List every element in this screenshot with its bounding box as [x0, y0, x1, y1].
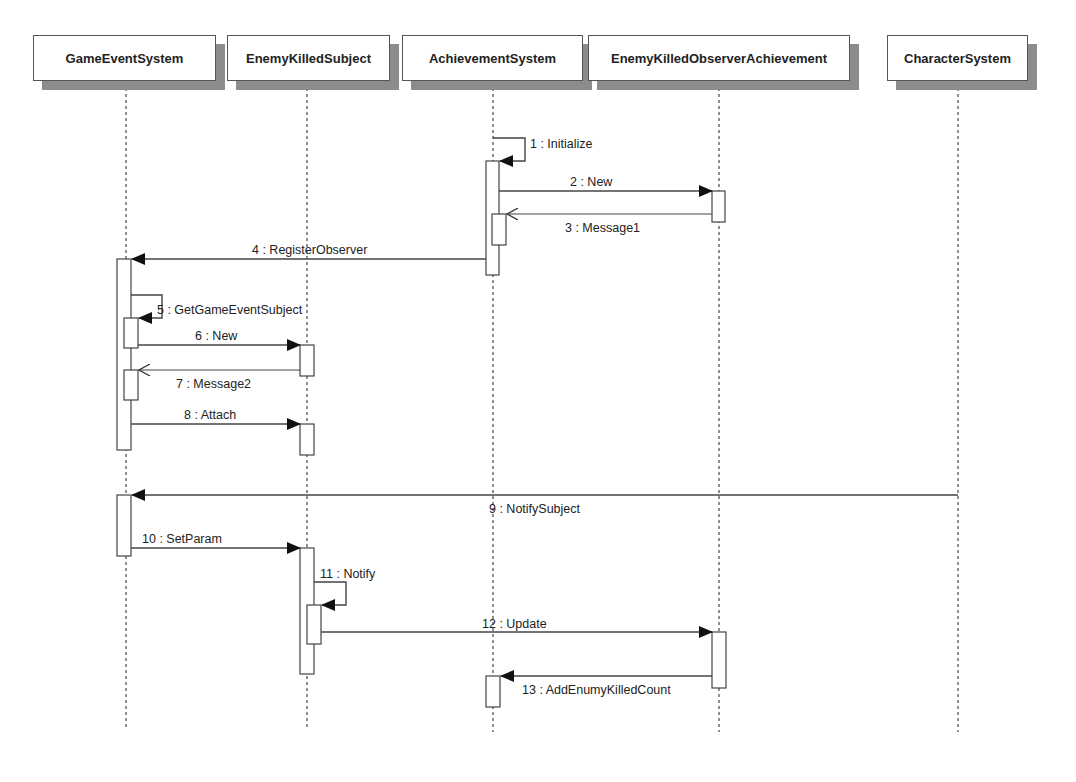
lifeline-head-character-system: CharacterSystem	[887, 35, 1028, 81]
message-8-label: 8 : Attach	[184, 408, 236, 422]
message-9-label: 9 : NotifySubject	[489, 502, 580, 516]
message-13-label: 13 : AddEnumyKilledCount	[522, 683, 671, 697]
activation-eks-1	[300, 345, 314, 376]
message-10-label: 10 : SetParam	[142, 532, 222, 546]
activation-game-event-system-3	[124, 370, 138, 400]
lifeline-head-achievement-system: AchievementSystem	[402, 35, 583, 81]
activation-bars	[117, 161, 726, 707]
activation-eks-4	[307, 605, 321, 644]
message-5-label: 5 : GetGameEventSubject	[157, 303, 302, 317]
message-11-arrow	[314, 582, 346, 605]
message-1-label: 1 : Initialize	[530, 137, 593, 151]
activation-achievement-system-3	[486, 676, 500, 707]
activation-ekoa-1	[712, 191, 725, 222]
lifeline-head-enemy-killed-subject: EnemyKilledSubject	[227, 35, 390, 81]
activation-achievement-system-2	[492, 214, 506, 245]
activation-game-event-system-2	[124, 318, 138, 348]
activation-ekoa-2	[712, 632, 726, 688]
diagram-canvas	[0, 0, 1076, 782]
message-6-label: 6 : New	[195, 329, 237, 343]
message-11-label: 11 : Notify	[320, 567, 375, 581]
messages	[131, 138, 958, 676]
message-4-label: 4 : RegisterObserver	[252, 243, 367, 257]
activation-game-event-system-4	[117, 495, 131, 556]
message-12-label: 12 : Update	[482, 617, 547, 631]
lifelines	[126, 88, 958, 732]
sequence-diagram: GameEventSystem EnemyKilledSubject Achie…	[0, 0, 1076, 782]
lifeline-head-game-event-system: GameEventSystem	[33, 35, 216, 81]
message-3-label: 3 : Message1	[565, 221, 640, 235]
message-7-label: 7 : Message2	[176, 377, 251, 391]
message-1-arrow	[493, 138, 525, 161]
message-2-label: 2 : New	[570, 175, 612, 189]
activation-eks-2	[300, 424, 314, 455]
lifeline-head-enemy-killed-observer-achievement: EnemyKilledObserverAchievement	[588, 35, 850, 81]
activation-game-event-system-1	[117, 259, 131, 450]
